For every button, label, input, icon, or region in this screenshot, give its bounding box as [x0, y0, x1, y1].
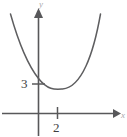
y-tick-label-3: 3	[21, 77, 28, 90]
x-tick-label-2: 2	[53, 121, 60, 134]
y-axis-label: y	[39, 0, 43, 9]
x-axis-arrowhead-icon	[113, 109, 121, 118]
y-axis-arrowhead-icon	[34, 8, 43, 18]
graph-canvas	[0, 0, 127, 137]
x-axis-label: x	[121, 111, 125, 120]
parabola-figure: y x 3 2	[0, 0, 127, 137]
